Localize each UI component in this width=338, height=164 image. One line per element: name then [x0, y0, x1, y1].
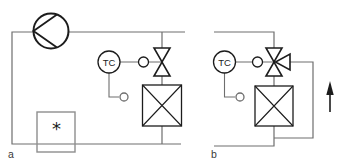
valve-actuator-icon-a [139, 57, 149, 67]
valve-top-triangle-a [154, 48, 170, 62]
sensor-line-b [225, 73, 236, 97]
controller-label-a: TC [103, 57, 116, 68]
heat-exchanger-icon-a [143, 85, 182, 126]
temperature-sensor-icon [120, 93, 128, 101]
figure-label-a: a [8, 148, 14, 160]
controller-label-b: TC [218, 57, 231, 68]
figure-label-b: b [211, 148, 217, 160]
heat-exchanger-icon-b [255, 86, 293, 126]
diagram-b: TC b [211, 32, 334, 160]
flow-direction-arrow-icon [326, 81, 333, 112]
compressor-icon [34, 14, 69, 49]
diagram-a: * TC [8, 14, 185, 161]
schematic-figure: * TC [0, 0, 338, 164]
cold-symbol: * [52, 118, 61, 139]
flow-arrow-head [326, 81, 333, 95]
valve-bottom-triangle-a [154, 62, 170, 76]
control-schematic-svg: * TC [0, 0, 338, 164]
valve-actuator-icon-b [253, 57, 263, 67]
pipe-top-b [214, 32, 274, 48]
temperature-sensor-icon-b [236, 93, 244, 101]
sensor-line-a [109, 73, 119, 97]
